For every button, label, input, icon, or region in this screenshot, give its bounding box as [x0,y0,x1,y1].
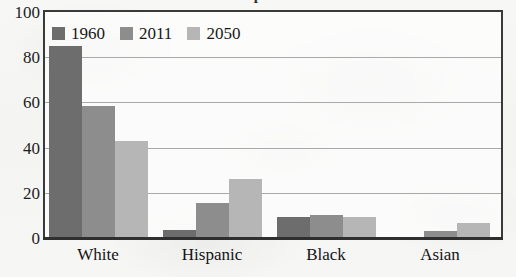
bar-black-2011 [310,215,343,238]
legend-swatch-2050 [187,27,200,40]
bar-hispanic-2050 [229,179,262,238]
legend-swatch-2011 [120,27,133,40]
bar-white-1960 [49,46,82,238]
bar-chart-figure: p 020406080100 WhiteHispanicBlackAsian 1… [0,0,516,277]
y-tick-label-60: 60 [0,94,40,111]
y-tick-label-40: 40 [0,140,40,157]
plot-area [43,10,503,240]
y-tick-label-20: 20 [0,185,40,202]
bar-asian-2050 [457,223,490,238]
legend-entry-1960: 1960 [52,25,105,42]
bar-white-2011 [82,106,115,238]
gridline-80 [45,57,501,58]
plot-inner [45,12,501,238]
bar-hispanic-2011 [196,203,229,238]
bar-white-2050 [115,141,148,238]
x-tick-label-hispanic: Hispanic [152,246,272,263]
bar-black-1960 [277,217,310,238]
bar-black-2050 [343,217,376,238]
chart-title-cropped: p [0,0,516,7]
y-tick-label-0: 0 [0,230,40,247]
legend-label-2050: 2050 [206,25,240,42]
legend-label-1960: 1960 [71,25,105,42]
x-tick-label-black: Black [266,246,386,263]
chart-legend: 196020112050 [52,25,240,42]
legend-label-2011: 2011 [139,25,172,42]
legend-entry-2011: 2011 [120,25,172,42]
legend-entry-2050: 2050 [187,25,240,42]
legend-swatch-1960 [52,27,65,40]
x-tick-label-white: White [38,246,158,263]
y-tick-label-80: 80 [0,49,40,66]
gridline-60 [45,102,501,103]
x-tick-label-asian: Asian [380,246,500,263]
x-axis-baseline [43,237,503,240]
